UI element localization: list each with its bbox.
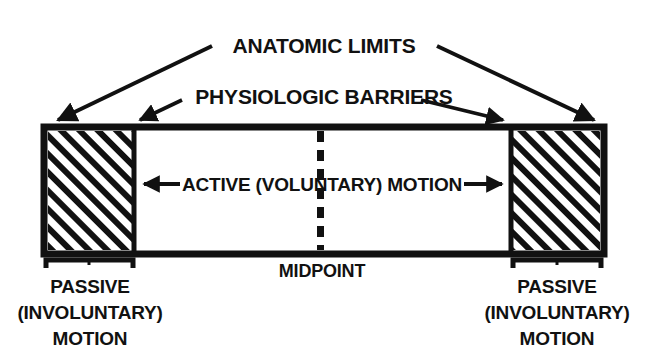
passive-right-label-line3: MOTION (520, 328, 595, 349)
anatomic-limit-arrow-left (58, 46, 212, 120)
midpoint-label: MIDPOINT (279, 261, 366, 281)
range-of-motion-diagram: ANATOMIC LIMITS PHYSIOLOGIC BARRIERS ACT… (0, 0, 648, 363)
passive-left-zone (48, 131, 134, 250)
passive-right-label-line2: (INVOLUNTARY) (484, 302, 629, 323)
passive-left-label-line3: MOTION (53, 328, 128, 349)
passive-right-zone (511, 131, 600, 250)
physiologic-barrier-arrow-left (140, 100, 182, 120)
diagram-canvas: ANATOMIC LIMITS PHYSIOLOGIC BARRIERS ACT… (0, 0, 648, 363)
passive-right-label-line1: PASSIVE (517, 276, 597, 297)
anatomic-limits-label: ANATOMIC LIMITS (233, 34, 416, 57)
passive-left-label-line1: PASSIVE (50, 276, 130, 297)
physiologic-barriers-label: PHYSIOLOGIC BARRIERS (195, 85, 453, 108)
active-motion-label: ACTIVE (VOLUNTARY) MOTION (182, 174, 462, 195)
physiologic-barrier-arrow-right (421, 100, 503, 120)
passive-left-label-line2: (INVOLUNTARY) (17, 302, 162, 323)
